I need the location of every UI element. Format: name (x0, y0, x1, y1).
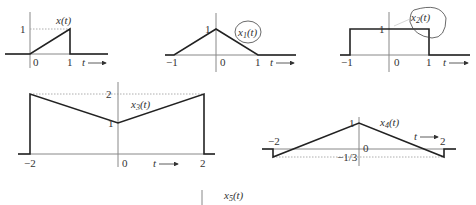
tick-x-neg1: −1 (341, 56, 353, 68)
t-label: t (82, 56, 86, 68)
t-label: t (443, 56, 447, 68)
tick-x-0: 0 (363, 142, 369, 154)
graph-x5: x5(t) (202, 189, 244, 205)
signal-x2 (340, 29, 470, 55)
tick-y-1: 1 (349, 117, 355, 129)
tick-x-neg1: −1 (166, 56, 178, 68)
t-label: t (153, 157, 157, 169)
label-x2: x2(t) (410, 11, 431, 25)
tick-y-1: 1 (205, 23, 211, 35)
graph-x2: 1 −1 0 1 x2(t) t (340, 7, 470, 72)
t-label: t (270, 56, 274, 68)
signal-x1 (165, 29, 296, 55)
tick-x-neg2: −2 (268, 135, 280, 147)
graph-x4: 1 0 −1/3 −2 2 x4(t) t (262, 116, 456, 166)
tick-x-1: 1 (67, 56, 73, 68)
graph-x1: 1 −1 0 1 x1(t) t (165, 13, 296, 72)
t-label: t (414, 130, 418, 142)
tick-y-neg-third: −1/3 (337, 151, 358, 163)
tick-x-0: 0 (394, 56, 400, 68)
label-x3: x3(t) (130, 98, 151, 112)
tick-x-0: 0 (220, 56, 226, 68)
graph-x: 1 0 1 x(t) t (5, 12, 108, 68)
tick-y-1: 1 (108, 117, 114, 129)
tick-x-2: 2 (200, 157, 206, 169)
graph-x3: 2 1 −2 0 2 x3(t) t (18, 82, 215, 169)
tick-x-1: 1 (255, 56, 261, 68)
label-x5: x5(t) (223, 189, 244, 203)
label-x1: x1(t) (237, 26, 258, 40)
tick-y-1: 1 (379, 23, 385, 35)
signals-figure: 1 0 1 x(t) t 1 −1 0 1 x1(t) t 1 −1 0 1 x… (0, 0, 476, 205)
tick-x-1: 1 (426, 56, 432, 68)
tick-x-0: 0 (122, 157, 128, 169)
tick-y-2: 2 (106, 88, 112, 100)
tick-y-1: 1 (20, 23, 26, 35)
label-x4: x4(t) (379, 116, 400, 130)
label-x: x(t) (55, 14, 72, 27)
signal-x3 (18, 94, 215, 154)
tick-x-neg2: −2 (24, 157, 36, 169)
tick-x-0: 0 (33, 56, 39, 68)
tick-x-2: 2 (440, 135, 446, 147)
